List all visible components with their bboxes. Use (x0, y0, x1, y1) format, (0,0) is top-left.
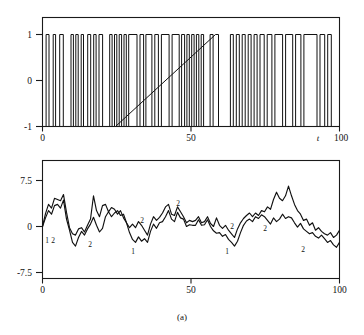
top-xticklabel-0: 0 (40, 133, 45, 143)
figure-container: 1 0 -1 0 50 100 t 7.5 0 -7.5 (0, 0, 364, 335)
top-yticklabel-0: 0 (27, 76, 32, 86)
curve-label-2-mid-left: 2 (140, 216, 144, 225)
bottom-panel: 7.5 0 -7.5 1 2 2 1 2 2 1 2 2 2 (17, 161, 347, 296)
bottom-panel-frame (43, 161, 340, 279)
binary-square-wave-trace (43, 35, 340, 127)
series-1-trace (43, 200, 340, 247)
bottom-yticklabel-0: 0 (27, 222, 32, 232)
top-xticklabel-50: 50 (186, 133, 196, 143)
top-yticklabel-neg1: -1 (24, 122, 32, 132)
figure-svg: 1 0 -1 0 50 100 t 7.5 0 -7.5 (0, 0, 364, 335)
bottom-xticklabel-50: 50 (186, 285, 196, 295)
curve-label-2-late: 2 (263, 224, 267, 233)
curve-label-1-mid-left: 1 (131, 247, 135, 256)
bottom-yticklabel-75: 7.5 (20, 176, 32, 186)
curve-label-2-early: 2 (88, 240, 92, 249)
bottom-xticklabel-100: 100 (332, 285, 347, 295)
top-yticklabel-1: 1 (27, 30, 32, 40)
figure-caption: (a) (177, 312, 187, 322)
curve-label-2-peak: 2 (176, 199, 180, 208)
top-xticklabel-100: 100 (334, 133, 349, 143)
curve-label-1-mid-right: 1 (225, 247, 229, 256)
curve-label-2-start: 2 (51, 236, 55, 245)
top-xaxis-label-t: t (317, 133, 320, 143)
top-panel-frame (43, 18, 340, 127)
curve-annotations: 1 2 2 1 2 2 1 2 2 2 (45, 199, 305, 256)
curve-label-2-mid-right: 2 (230, 222, 234, 231)
top-panel: 1 0 -1 0 50 100 t (24, 18, 348, 144)
curve-label-1-start: 1 (45, 236, 49, 245)
bottom-yticklabel-neg75: -7.5 (17, 268, 32, 278)
bottom-xticklabel-0: 0 (40, 285, 45, 295)
curve-label-2-end: 2 (301, 245, 305, 254)
